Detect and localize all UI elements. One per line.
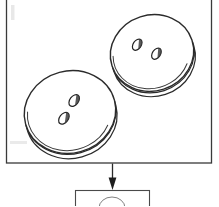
scan-smudge-left-upper	[11, 5, 15, 20]
arrow-head	[109, 178, 117, 191]
scan-smudge-left-lower	[10, 141, 27, 144]
line-drawing-svg	[0, 0, 219, 206]
lower-panel-cropped	[76, 191, 150, 207]
figure-canvas	[0, 0, 219, 206]
flow-arrow-down	[109, 164, 117, 191]
